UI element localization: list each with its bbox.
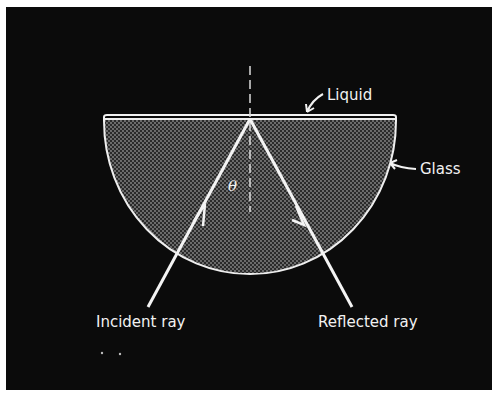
liquid-pointer-icon <box>306 94 323 112</box>
glass-label: Glass <box>420 160 461 178</box>
reflection-diagram: θ Liquid Glass Incident ray Reflected ra… <box>0 0 498 396</box>
angle-theta-label: θ <box>228 177 237 195</box>
glass-pointer-icon <box>390 160 416 169</box>
incident-ray-label: Incident ray <box>96 313 186 331</box>
reflected-ray-label: Reflected ray <box>318 313 418 331</box>
speck <box>101 352 103 354</box>
liquid-label: Liquid <box>327 86 372 104</box>
speck <box>119 353 121 355</box>
